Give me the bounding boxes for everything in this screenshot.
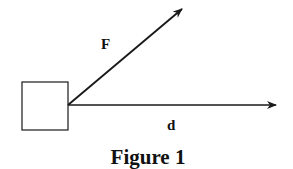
force-label: F [101, 36, 110, 52]
force-vector-arrow [68, 9, 182, 105]
block [22, 82, 68, 130]
displacement-label: d [167, 117, 176, 133]
figure-caption: Figure 1 [111, 145, 186, 169]
force-diagram: F d Figure 1 [0, 0, 293, 169]
